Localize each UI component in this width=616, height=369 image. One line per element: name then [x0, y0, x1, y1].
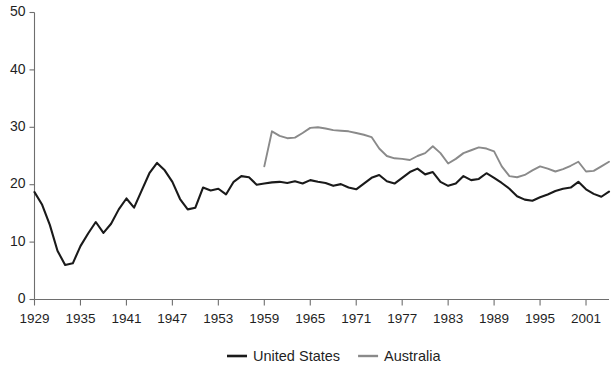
- x-axis-tick-labels: 1929193519411947195319591965197119771983…: [19, 311, 601, 326]
- x-tick-label: 1995: [525, 311, 555, 326]
- y-tick-label: 10: [10, 233, 26, 249]
- x-tick-label: 1941: [111, 311, 141, 326]
- x-tick-label: 2001: [571, 311, 601, 326]
- y-tick-label: 0: [18, 290, 26, 306]
- y-tick-label: 40: [10, 61, 26, 77]
- x-tick-label: 1965: [295, 311, 325, 326]
- chart-legend: United StatesAustralia: [227, 348, 441, 364]
- y-axis-tick-labels: 01020304050: [10, 3, 26, 306]
- x-tick-label: 1935: [65, 311, 95, 326]
- y-tick-label: 50: [10, 3, 26, 19]
- chart-svg: 01020304050 1929193519411947195319591965…: [0, 0, 616, 369]
- x-tick-label: 1989: [479, 311, 509, 326]
- x-axis-tick-marks: [35, 300, 587, 306]
- x-tick-label: 1953: [203, 311, 233, 326]
- x-tick-label: 1977: [387, 311, 417, 326]
- x-tick-label: 1959: [249, 311, 279, 326]
- x-tick-label: 1929: [19, 311, 49, 326]
- legend-label-australia: Australia: [384, 348, 441, 364]
- x-tick-label: 1947: [157, 311, 187, 326]
- y-tick-label: 30: [10, 118, 26, 134]
- investment-share-line-chart: 01020304050 1929193519411947195319591965…: [0, 0, 616, 369]
- x-tick-label: 1971: [341, 311, 371, 326]
- series-line-united-states: [35, 163, 610, 265]
- y-axis-tick-marks: [30, 13, 35, 300]
- legend-label-united-states: United States: [253, 348, 340, 364]
- series-line-australia: [264, 127, 609, 177]
- x-tick-label: 1983: [433, 311, 463, 326]
- y-tick-label: 20: [10, 175, 26, 191]
